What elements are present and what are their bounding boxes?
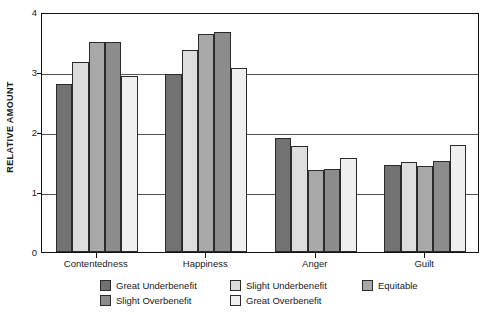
legend-item: Great Underbenefit [100,280,197,291]
y-axis-tick-label: 1 [19,188,37,198]
bar [231,68,247,252]
legend-item-label: Slight Underbenefit [246,280,327,291]
legend-swatch-icon [100,295,111,306]
legend-swatch-icon [230,295,241,306]
bar [214,32,230,252]
bar [105,42,121,252]
x-axis-tick-mark [315,253,316,258]
bar [275,138,291,252]
y-axis-title-text: RELATIVE AMOUNT [5,81,15,173]
legend-swatch-icon [230,280,241,291]
bar [56,84,72,252]
legend-item: Equitable [362,280,418,291]
y-axis-tick-label: 3 [19,68,37,78]
legend-item-label: Equitable [378,280,418,291]
bar [417,166,433,252]
bar [433,161,449,252]
bar [72,62,88,252]
x-axis-category-label: Guilt [364,258,484,269]
chart-legend: Great UnderbenefitSlight UnderbenefitEqu… [100,280,472,312]
bar-group [152,14,262,252]
legend-item-label: Slight Overbenefit [116,295,192,306]
chart-figure: RELATIVE AMOUNT 01234 ContentednessHappi… [0,0,487,315]
bar [198,34,214,252]
y-axis-title: RELATIVE AMOUNT [2,0,18,253]
legend-swatch-icon [362,280,373,291]
bar [182,50,198,252]
plot-area [41,13,479,253]
bar-group [42,14,152,252]
bar [165,74,181,252]
x-axis-category-label: Contentedness [36,258,156,269]
bar-group [371,14,481,252]
bar [291,146,307,252]
x-axis-tick-mark [205,253,206,258]
y-axis-tick-labels: 01234 [17,0,37,253]
legend-item: Slight Underbenefit [230,280,327,291]
bar [401,162,417,252]
bar [450,145,466,252]
bar [89,42,105,252]
x-axis-tick-mark [424,253,425,258]
bar [340,158,356,252]
legend-item: Great Overbenefit [230,295,322,306]
x-axis-tick-mark [96,253,97,258]
y-axis-tick-label: 4 [19,8,37,18]
legend-swatch-icon [100,280,111,291]
bar [384,165,400,252]
legend-item-label: Great Underbenefit [116,280,197,291]
y-axis-tick-label: 2 [19,128,37,138]
bar-series-container [42,14,478,252]
legend-item-label: Great Overbenefit [246,295,322,306]
bar-group [261,14,371,252]
legend-item: Slight Overbenefit [100,295,192,306]
bar [308,170,324,252]
y-axis-tick-label: 0 [19,248,37,258]
x-axis-category-label: Happiness [145,258,265,269]
x-axis-category-label: Anger [255,258,375,269]
bar [121,76,137,252]
bar [324,169,340,252]
